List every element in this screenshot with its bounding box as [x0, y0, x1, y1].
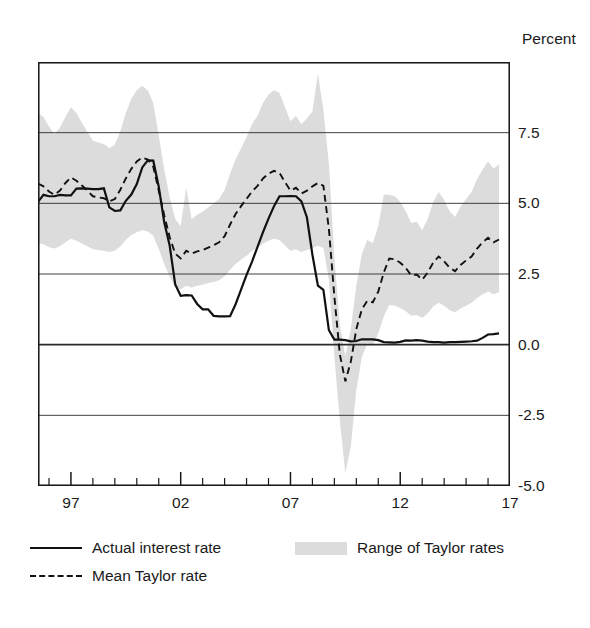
taylor-rate-chart-figure: Percent 7.55.02.50.0-2.5-5.0 9702071217 … — [0, 0, 590, 628]
x-axis-tick-label: 12 — [392, 494, 409, 512]
plot-area — [38, 62, 510, 486]
y-axis-tick-label: 2.5 — [518, 265, 540, 283]
plot-content — [38, 62, 510, 486]
legend-item-mean-taylor-rate: Mean Taylor rate — [30, 568, 207, 584]
x-axis-tick-label: 97 — [62, 494, 79, 512]
y-axis-tick-label: -2.5 — [518, 406, 545, 424]
legend-item-actual-interest-rate: Actual interest rate — [30, 540, 221, 556]
chart-canvas — [38, 62, 510, 486]
legend-label-range-of-taylor-rates: Range of Taylor rates — [357, 540, 504, 556]
x-axis-tick-label: 07 — [282, 494, 299, 512]
legend-row-1: Actual interest rate Range of Taylor rat… — [30, 540, 570, 568]
legend-item-range-of-taylor-rates: Range of Taylor rates — [295, 540, 504, 556]
y-axis-unit-label: Percent — [522, 30, 576, 48]
y-axis-tick-label: 7.5 — [518, 124, 540, 142]
chart-legend: Actual interest rate Range of Taylor rat… — [30, 540, 570, 596]
y-axis-tick-label: 5.0 — [518, 194, 540, 212]
legend-label-actual-interest-rate: Actual interest rate — [92, 540, 221, 556]
x-axis-tick-label: 02 — [172, 494, 189, 512]
shaded-band-swatch-icon — [295, 542, 347, 555]
y-axis-tick-label: -5.0 — [518, 477, 545, 495]
dashed-line-swatch-icon — [30, 569, 82, 583]
legend-label-mean-taylor-rate: Mean Taylor rate — [92, 568, 207, 584]
solid-line-swatch-icon — [30, 541, 82, 555]
y-axis-tick-label: 0.0 — [518, 336, 540, 354]
x-axis-tick-label: 17 — [501, 494, 518, 512]
legend-row-2: Mean Taylor rate — [30, 568, 570, 596]
